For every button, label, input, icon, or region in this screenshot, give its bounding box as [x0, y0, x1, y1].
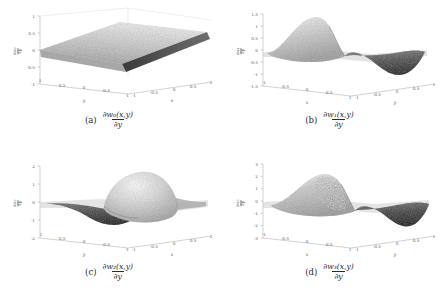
left-tick: -1	[261, 232, 265, 237]
z-tick: 0	[32, 200, 35, 205]
plot-c: 2 1 0 -1 -2	[0, 154, 220, 270]
caption-label: (a)	[85, 116, 97, 125]
right-tick: 0	[173, 241, 176, 246]
panel-a: 1 0.5 0 -0.5 -1	[0, 0, 220, 152]
caption-denominator: ∂y	[112, 119, 124, 128]
plot-d: 3 2 1 0 -1 -2 -3	[221, 154, 441, 270]
z-tick: -2	[31, 236, 35, 241]
caption-denominator: ∂y	[112, 271, 124, 280]
z-axis-label-num: ∂w₁	[236, 47, 240, 57]
left-tick: 0.5	[59, 236, 66, 241]
z-axis-ticks-c: 2 1 0 -1 -2	[31, 164, 40, 241]
z-axis-ticks-a: 1 0.5 0 -0.5 -1	[27, 14, 40, 87]
left-tick: 1	[348, 247, 351, 252]
caption-numerator: ∂w₂(x,y)	[101, 263, 135, 271]
z-tick: 0	[255, 199, 258, 204]
left-axis-name: y	[82, 252, 86, 258]
plot-a: 1 0.5 0 -0.5 -1	[0, 2, 220, 118]
left-tick: -0.5	[102, 242, 110, 247]
right-tick: 0.5	[190, 238, 197, 243]
caption-label: (b)	[305, 116, 317, 125]
left-axis-name: x	[305, 252, 308, 257]
z-tick: -1	[31, 218, 35, 223]
right-tick: 0.5	[412, 86, 419, 91]
left-tick: 1	[348, 95, 351, 100]
right-tick: -1	[132, 93, 136, 98]
right-axis-ticks-c: -1 -0.5 0 0.5 1 x	[132, 234, 213, 257]
left-axis-ticks-d: -1 -0.5 0 0.5 1 x	[261, 232, 351, 257]
right-tick: 0.5	[190, 84, 197, 89]
surface-d	[263, 174, 429, 226]
right-tick: -1	[132, 247, 136, 252]
z-tick: -1	[31, 82, 35, 87]
left-tick: -0.5	[102, 88, 110, 93]
panel-b: 1.5 1 0.5 0 -0.5 -1 -1.5	[221, 0, 441, 152]
left-axis-name: x	[305, 100, 308, 105]
z-axis-label-d: ∂w₃ ∂y	[235, 199, 246, 209]
left-tick: 0	[305, 87, 308, 92]
right-tick: 1	[432, 82, 435, 87]
caption-c: (c) ∂w₂(x,y) ∂y	[0, 264, 220, 281]
z-tick: 0.5	[251, 36, 258, 41]
right-tick: -1	[354, 247, 358, 252]
right-tick: 1	[432, 234, 435, 239]
z-tick: 2	[32, 164, 35, 169]
z-axis-label-den: ∂y	[240, 48, 245, 55]
left-tick: 0	[83, 239, 86, 244]
z-tick: -0.5	[27, 65, 35, 70]
right-tick: -0.5	[150, 90, 158, 95]
right-axis-ticks-a: -1 -0.5 0 0.5 1 x	[132, 80, 213, 103]
left-tick: -1	[261, 80, 265, 85]
right-tick: 0	[395, 89, 398, 94]
right-tick: -0.5	[150, 244, 158, 249]
plot-b: 1.5 1 0.5 0 -0.5 -1 -1.5	[221, 2, 441, 118]
z-tick: -1.5	[249, 84, 257, 89]
z-axis-label-den: ∂y	[18, 200, 23, 207]
left-tick: 0	[305, 239, 308, 244]
left-axis-ticks-c: 1 0.5 0 -0.5 -1 y	[40, 232, 130, 258]
z-tick: -0.5	[249, 60, 257, 65]
caption-b: (b) ∂w₁(x,y) ∂y	[221, 112, 441, 129]
z-tick: 0	[32, 48, 35, 53]
z-tick: 1.5	[251, 12, 258, 17]
z-tick: -1	[253, 72, 257, 77]
z-axis-ticks-d: 3 2 1 0 -1 -2 -3	[253, 162, 262, 241]
left-axis-ticks-b: -1 -0.5 0 0.5 1 x	[261, 80, 351, 105]
figure-grid: 1 0.5 0 -0.5 -1	[0, 0, 441, 304]
z-tick: 1	[255, 186, 258, 191]
z-axis-label-c: ∂w₂ ∂y	[12, 199, 23, 209]
z-tick: 1	[32, 182, 35, 187]
left-tick: 0.5	[325, 90, 332, 95]
left-tick: 0.5	[325, 242, 332, 247]
z-tick: 0	[255, 48, 258, 53]
caption-label: (d)	[305, 268, 317, 277]
caption-denominator: ∂y	[332, 119, 344, 128]
right-tick: 0	[395, 241, 398, 246]
right-tick: 1	[210, 234, 213, 239]
caption-denominator: ∂y	[332, 271, 344, 280]
z-tick: 2	[255, 174, 258, 179]
left-tick: 0	[83, 85, 86, 90]
panel-c: 2 1 0 -1 -2	[0, 152, 220, 304]
right-axis-name: x	[171, 98, 174, 103]
right-tick: 1	[210, 80, 213, 85]
right-axis-name: y	[392, 252, 396, 258]
right-tick: -0.5	[372, 244, 380, 249]
z-axis-label-b: ∂w₁ ∂y	[235, 47, 246, 57]
left-tick: 0.5	[59, 83, 66, 88]
z-tick: -1	[253, 211, 257, 216]
left-tick: -0.5	[280, 236, 288, 241]
z-tick: 3	[255, 162, 258, 167]
left-axis-ticks-a: 1 0.5 0 -0.5 -1 y	[39, 78, 130, 104]
caption-label: (c)	[85, 268, 96, 277]
left-tick: -1	[125, 247, 129, 252]
right-axis-name: y	[392, 100, 396, 106]
z-axis-label-den: ∂y	[18, 48, 23, 55]
right-axis-name: x	[171, 252, 174, 257]
caption-d: (d) ∂w₃(x,y) ∂y	[221, 264, 441, 281]
panel-d: 3 2 1 0 -1 -2 -3	[221, 152, 441, 304]
left-axis-name: y	[82, 98, 86, 104]
right-tick: 0.5	[412, 238, 419, 243]
z-axis-label-den: ∂y	[240, 200, 245, 207]
left-tick: -1	[125, 93, 129, 98]
